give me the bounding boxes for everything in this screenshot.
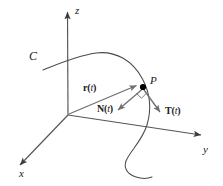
position-vector-label: r(t) xyxy=(83,83,96,93)
unit-normal-vector-arrow xyxy=(118,90,142,111)
unit-normal-vector-symbol: N xyxy=(97,103,104,114)
point-label-p: P xyxy=(150,75,157,86)
position-vector-paren-close: ) xyxy=(93,82,96,93)
x-axis-line xyxy=(20,115,68,165)
axis-lines xyxy=(20,12,201,165)
y-axis-line xyxy=(68,115,201,135)
space-curve-path xyxy=(43,53,152,179)
vector-calculus-figure: z y x C P r(t) N(t) T(t) xyxy=(0,0,223,186)
point-marker-p xyxy=(140,84,146,90)
figure-canvas xyxy=(0,0,223,186)
unit-tangent-vector-label: T(t) xyxy=(165,106,180,116)
unit-tangent-vector-paren-close: ) xyxy=(177,105,180,116)
y-axis-label: y xyxy=(203,144,208,155)
x-axis-label: x xyxy=(19,168,24,179)
z-axis-label: z xyxy=(75,5,79,16)
curve-label: C xyxy=(29,50,37,62)
unit-normal-vector-paren-close: ) xyxy=(110,103,113,114)
z-axis-line xyxy=(68,12,69,115)
right-angle-marker xyxy=(137,93,147,98)
unit-normal-vector-label: N(t) xyxy=(97,104,113,114)
